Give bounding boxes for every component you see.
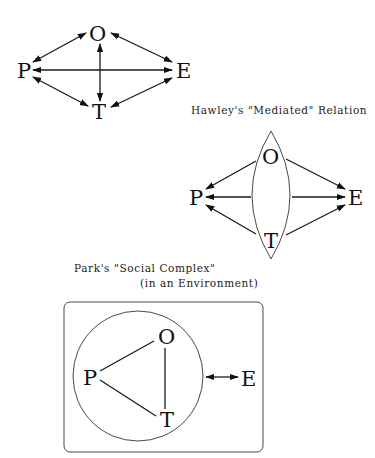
edge-lens-p-lower [206,205,256,234]
hawley-caption: Hawley's "Mediated" Relation [191,104,367,116]
park-caption-line1: Park's "Social Complex" [74,262,216,274]
edge-p-o [100,341,154,371]
edge-lens-e-lower [286,205,345,235]
park-caption-line2: (in an Environment) [140,277,258,289]
edge-p-o [33,33,86,62]
node-e: E [241,367,256,391]
edge-t-e [111,78,172,107]
node-e: E [176,59,191,83]
node-p: P [189,186,203,210]
node-t: T [264,229,278,253]
diagram-canvas: O P E T Hawley's "Mediated" Relation O T… [0,0,375,458]
edge-lens-p-upper [206,161,256,189]
diagram-park-social-complex: Park's "Social Complex" (in an Environme… [64,262,263,452]
node-t: T [92,100,106,124]
diagram-direct-relations: O P E T [17,22,191,124]
edge-p-t [100,380,156,416]
node-o: O [262,145,279,169]
edge-lens-e-upper [286,159,345,189]
node-o: O [89,22,106,46]
edge-o-e [111,33,172,62]
node-p: P [17,59,31,83]
edge-p-t [33,77,88,106]
node-e: E [348,186,363,210]
diagram-hawley-mediated: Hawley's "Mediated" Relation O T P E [189,104,367,259]
node-t: T [160,408,174,432]
node-o: O [158,325,175,349]
node-p: P [83,366,97,390]
